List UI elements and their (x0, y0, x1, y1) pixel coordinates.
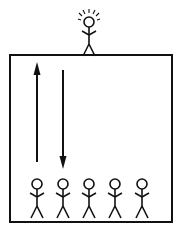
diagram-canvas (0, 0, 180, 227)
stick-figure (82, 179, 96, 218)
stick-figure (56, 179, 70, 218)
radiance-lines-icon (78, 9, 100, 20)
stick-figure (108, 179, 122, 218)
top-stick-figure (78, 9, 100, 56)
up-arrow-icon (34, 62, 41, 162)
down-arrow-icon (60, 70, 67, 169)
stick-figure (135, 179, 149, 218)
stick-figure (30, 179, 44, 218)
box (10, 55, 172, 222)
